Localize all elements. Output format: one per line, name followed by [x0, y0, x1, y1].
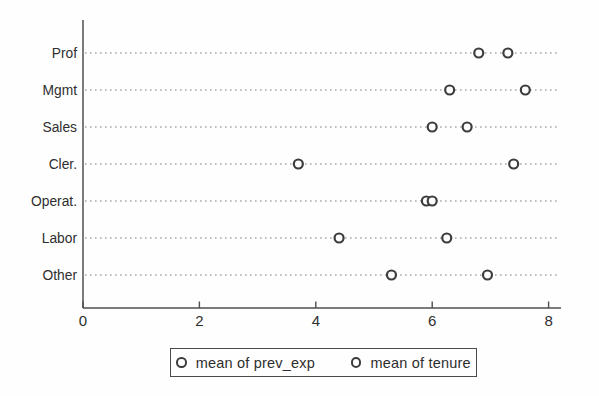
open-circle-icon — [176, 357, 187, 368]
category-label: Cler. — [49, 157, 77, 172]
x-tick-label: 8 — [544, 312, 552, 329]
category-label: Mgmt — [43, 83, 78, 98]
data-point-tenure — [483, 271, 492, 280]
open-circle-icon — [351, 357, 362, 368]
legend-label-prev-exp: mean of prev_exp — [196, 355, 315, 371]
data-point-prev-exp — [294, 160, 303, 169]
data-point-tenure — [442, 234, 451, 243]
category-label: Other — [42, 268, 77, 283]
category-label: Sales — [42, 120, 77, 135]
x-tick-label: 2 — [195, 312, 203, 329]
data-point-prev-exp — [335, 234, 344, 243]
x-tick-label: 6 — [428, 312, 436, 329]
data-point-tenure — [521, 86, 530, 95]
x-tick-label: 4 — [312, 312, 320, 329]
data-point-prev-exp — [428, 123, 437, 132]
data-point-tenure — [428, 197, 437, 206]
category-label: Operat. — [31, 194, 77, 209]
legend: mean of prev_exp mean of tenure — [170, 348, 477, 377]
data-point-prev-exp — [387, 271, 396, 280]
data-point-tenure — [509, 160, 518, 169]
legend-label-tenure: mean of tenure — [370, 355, 470, 371]
data-point-prev-exp — [445, 86, 454, 95]
legend-item-prev-exp: mean of prev_exp — [176, 355, 315, 371]
legend-item-tenure: mean of tenure — [351, 355, 471, 371]
data-point-tenure — [503, 49, 512, 58]
dot-plot-figure: ProfMgmtSalesCler.Operat.LaborOther02468… — [0, 0, 599, 396]
data-point-prev-exp — [474, 49, 483, 58]
data-point-tenure — [463, 123, 472, 132]
category-label: Labor — [42, 231, 78, 246]
x-tick-label: 0 — [79, 312, 87, 329]
category-label: Prof — [52, 46, 77, 61]
chart-svg: ProfMgmtSalesCler.Operat.LaborOther02468 — [0, 0, 599, 396]
